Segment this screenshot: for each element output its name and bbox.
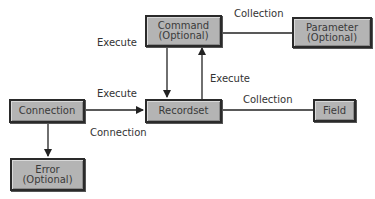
node-parameter-line-1: Parameter (306, 23, 358, 33)
node-parameter: Parameter (Optional) (292, 17, 372, 48)
node-command-line-2: (Optional) (158, 31, 208, 41)
label-recordset-connection: Connection (90, 127, 147, 138)
node-connection-label: Connection (19, 106, 76, 116)
label-recordset-to-field: Collection (243, 94, 292, 105)
node-error-line-2: (Optional) (22, 175, 72, 185)
node-command: Command (Optional) (145, 15, 222, 47)
node-field-label: Field (323, 106, 346, 116)
label-recordset-to-command: Execute (210, 73, 250, 84)
node-recordset-label: Recordset (159, 106, 209, 116)
node-recordset: Recordset (145, 99, 222, 123)
node-connection: Connection (9, 99, 85, 123)
label-command-to-parameter: Collection (234, 8, 283, 19)
node-error-line-1: Error (35, 165, 59, 175)
label-command-to-recordset: Execute (97, 37, 137, 48)
node-field: Field (313, 99, 356, 122)
node-parameter-line-2: (Optional) (307, 33, 357, 43)
node-error: Error (Optional) (10, 158, 85, 191)
label-connection-to-recordset: Execute (97, 88, 137, 99)
